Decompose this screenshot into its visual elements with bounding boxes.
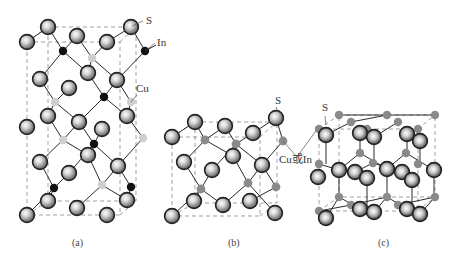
sulfur-atom — [332, 163, 347, 178]
sulfur-atom — [360, 171, 375, 186]
sulfur-atom — [187, 194, 202, 209]
sulfur-atom — [165, 130, 180, 145]
caption-b: (b) — [228, 237, 240, 249]
sulfur-atom — [41, 194, 56, 209]
sulfur-atom — [70, 201, 85, 216]
sulfur-atom — [205, 163, 220, 178]
sulfur-atom — [177, 155, 192, 170]
sulfur-atom — [41, 20, 56, 35]
cu-or-in-atom — [197, 185, 206, 194]
cation-atom — [315, 160, 323, 168]
cation-atom — [414, 125, 422, 133]
atom-label: S — [275, 94, 281, 106]
atom-label: S — [146, 14, 152, 26]
sulfur-atom — [33, 155, 48, 170]
atom-label: Cu或In — [279, 153, 313, 165]
sulfur-atom — [41, 109, 56, 124]
sulfur-atom — [353, 126, 368, 141]
sulfur-atom — [70, 29, 85, 44]
sulfur-atom — [111, 159, 126, 174]
cation-atom — [369, 159, 377, 167]
cation-atom — [347, 118, 355, 126]
sulfur-atom — [20, 208, 35, 223]
cu-or-in-atom — [232, 140, 241, 149]
sulfur-atom — [72, 115, 87, 130]
sulfur-atom — [62, 166, 77, 181]
cation-atom — [431, 193, 439, 201]
indium-atom — [59, 47, 67, 55]
sulfur-atom — [81, 66, 96, 81]
copper-atom — [59, 136, 67, 144]
sulfur-atom — [255, 158, 270, 173]
copper-atom — [51, 98, 59, 106]
caption-a: (a) — [72, 237, 83, 249]
cation-atom — [383, 193, 391, 201]
copper-atom — [88, 54, 96, 62]
cation-atom — [414, 160, 422, 168]
cation-atom — [402, 149, 410, 157]
sulfur-atom — [268, 206, 283, 221]
cation-atom — [356, 149, 364, 157]
panel-c-wurtzite: S (c) — [311, 101, 442, 249]
sulfur-atom — [218, 119, 233, 134]
cation-atom — [335, 111, 343, 119]
atom-label: Cu — [136, 82, 149, 94]
indium-atom — [127, 183, 135, 191]
label-leader-line — [145, 43, 155, 51]
sulfur-atom — [100, 208, 115, 223]
sulfur-atom — [427, 163, 442, 178]
copper-atom — [139, 134, 147, 142]
sulfur-atom — [413, 134, 428, 149]
cu-or-in-atom — [244, 179, 253, 188]
sulfur-atom — [243, 194, 258, 209]
labels-b: SCu或In — [275, 94, 318, 165]
sulfur-atom — [120, 193, 135, 208]
sulfur-atom — [188, 115, 203, 130]
sulfur-atom — [62, 81, 77, 96]
bond — [351, 115, 387, 122]
panel-b-sphalerite: SCu或In (b) — [165, 94, 318, 249]
sulfur-atom — [319, 128, 334, 143]
sulfur-atom — [110, 73, 125, 88]
atom-label: In — [157, 36, 167, 48]
label-leader-line — [325, 116, 326, 125]
bond — [319, 205, 351, 211]
labels-c: S — [322, 101, 328, 125]
sulfur-atom — [226, 149, 241, 164]
sulfur-atom — [120, 109, 135, 124]
sulfur-atom — [367, 205, 382, 220]
sulfur-atom — [319, 211, 334, 226]
cation-atom — [383, 111, 391, 119]
sulfur-atom — [20, 35, 35, 50]
sulfur-atom — [311, 170, 326, 185]
atoms-c — [311, 111, 442, 226]
cu-or-in-atom — [201, 136, 210, 145]
sulfur-atom — [353, 202, 368, 217]
sulfur-atom — [20, 120, 35, 135]
cation-atom — [394, 118, 402, 126]
caption-c: (c) — [378, 237, 389, 249]
sulfur-atom — [216, 198, 231, 213]
sulfur-atom — [246, 126, 261, 141]
crystal-structure-figure: SInCu (a) SCu或In (b) S (c) — [0, 0, 457, 268]
indium-atom — [100, 93, 108, 101]
panel-a-chalcopyrite: SInCu (a) — [20, 14, 167, 249]
sulfur-atom — [100, 35, 115, 50]
cation-atom — [335, 193, 343, 201]
sulfur-atom — [81, 148, 96, 163]
sulfur-atom — [413, 207, 428, 222]
sulfur-atom — [165, 209, 180, 224]
indium-atom — [90, 140, 98, 148]
sulfur-atom — [95, 122, 110, 137]
sulfur-atom — [380, 162, 395, 177]
sulfur-atom — [405, 173, 420, 188]
indium-atom — [50, 184, 58, 192]
cu-or-in-atom — [272, 183, 281, 192]
sulfur-atom — [367, 130, 382, 145]
sulfur-atom — [124, 20, 139, 35]
sulfur-atom — [269, 111, 284, 126]
sulfur-atom — [33, 72, 48, 87]
cation-atom — [431, 111, 439, 119]
atom-label: S — [322, 101, 328, 113]
copper-atom — [98, 181, 106, 189]
